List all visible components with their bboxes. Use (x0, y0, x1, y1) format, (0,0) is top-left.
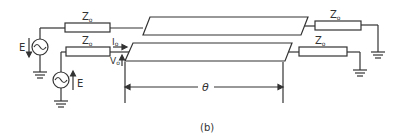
top-right-ground-icon (371, 52, 385, 58)
z-top-left-label: Zo (82, 11, 93, 23)
z-bottom-left-label: Zo (82, 35, 93, 47)
top-source-arrow-icon (27, 38, 32, 57)
bottom-source-arrow-icon (71, 71, 76, 90)
top-source-ground-icon (33, 72, 47, 78)
bottom-left-impedance (66, 47, 110, 56)
bottom-voltage-source (53, 52, 69, 101)
voltage-arrow-icon (120, 55, 125, 66)
bottom-right-ground-icon (353, 70, 367, 76)
source-top-label: E (19, 42, 25, 53)
top-left-impedance (65, 23, 110, 32)
upper-coupled-line (143, 17, 308, 35)
z-top-right-label: Zo (330, 9, 341, 21)
figure-caption: (b) (200, 122, 214, 133)
bottom-right-impedance (299, 47, 347, 56)
lower-coupled-line (125, 43, 292, 61)
top-voltage-source (32, 28, 65, 72)
voltage-label: Vo (110, 56, 120, 66)
current-label: Io (112, 37, 119, 47)
theta-label: θ (202, 81, 209, 94)
bottom-source-ground-icon (54, 101, 68, 107)
coupled-lines-diagram: Zo Zo Zo Zo E E Io Vo θ (b) (0, 0, 409, 139)
top-right-impedance (315, 21, 361, 30)
z-bottom-right-label: Zo (315, 35, 326, 47)
source-bottom-label: E (77, 78, 83, 89)
